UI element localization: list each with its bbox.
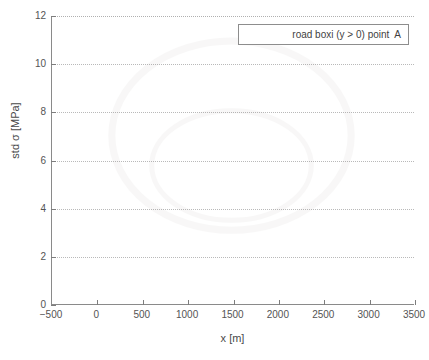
y-axis-tick <box>51 305 56 306</box>
x-axis-tick-labels: −5000500100015002000250030003500 <box>51 310 414 324</box>
x-axis-tick-label: 2500 <box>298 310 348 320</box>
x-axis-title: x [m] <box>51 333 414 344</box>
x-axis-tick <box>370 300 371 305</box>
gridline <box>52 209 414 210</box>
y-axis-title: std σ [MPa] <box>10 81 21 181</box>
legend-box[interactable]: road boxi (y > 0) point A <box>238 24 409 45</box>
x-axis-tick <box>279 300 280 305</box>
y-axis-tick-label: 4 <box>16 204 46 214</box>
x-axis-tick-label: 2000 <box>253 310 303 320</box>
y-axis-tick-label: 8 <box>16 107 46 117</box>
gridline <box>52 112 414 113</box>
x-axis-tick-label: 1500 <box>208 310 258 320</box>
y-axis-tick-label: 10 <box>16 59 46 69</box>
y-axis-tick-label: 2 <box>16 252 46 262</box>
x-axis-tick <box>234 300 235 305</box>
y-axis-tick <box>51 161 56 162</box>
x-axis-tick <box>143 300 144 305</box>
legend-entry-label: road boxi (y > 0) point A <box>292 30 401 40</box>
gridline <box>52 64 414 65</box>
gridline <box>52 161 414 162</box>
x-axis-tick <box>188 300 189 305</box>
x-axis-tick-label: 1000 <box>162 310 212 320</box>
x-axis-tick <box>324 300 325 305</box>
y-axis-tick <box>51 209 56 210</box>
plot-area <box>51 16 414 305</box>
gridline <box>52 16 414 17</box>
x-axis-tick-label: 500 <box>117 310 167 320</box>
x-axis-tick-label: 3000 <box>344 310 394 320</box>
x-axis-tick <box>97 300 98 305</box>
scan-artifact <box>52 16 414 304</box>
y-axis-tick <box>51 257 56 258</box>
figure-canvas: 024681012 −50005001000150020002500300035… <box>0 0 429 360</box>
y-axis-tick <box>51 112 56 113</box>
gridline <box>52 257 414 258</box>
x-axis-tick-label: −500 <box>26 310 76 320</box>
y-axis-tick <box>51 64 56 65</box>
y-axis-tick-label: 12 <box>16 11 46 21</box>
x-axis-tick-label: 0 <box>71 310 121 320</box>
x-axis-tick-label: 3500 <box>389 310 429 320</box>
x-axis-tick <box>415 300 416 305</box>
y-axis-tick <box>51 16 56 17</box>
y-axis-tick-label: 6 <box>16 156 46 166</box>
